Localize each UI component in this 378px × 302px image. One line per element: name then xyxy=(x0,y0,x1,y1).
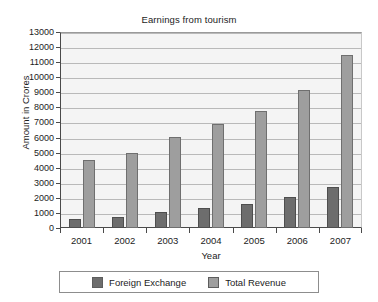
bar-total-revenue-2005 xyxy=(255,111,267,228)
x-tick-mark xyxy=(103,228,104,233)
bar-group xyxy=(189,32,232,228)
x-axis-title: Year xyxy=(60,250,362,261)
y-tick-label: 5000 xyxy=(0,148,54,158)
bar-group xyxy=(146,32,189,228)
x-tick-mark xyxy=(361,228,362,233)
bar-foreign-exchange-2002 xyxy=(112,217,124,228)
bar-foreign-exchange-2004 xyxy=(198,208,210,228)
y-tick-label: 4000 xyxy=(0,163,54,173)
chart-title: Earnings from tourism xyxy=(0,14,378,25)
y-tick-label: 2000 xyxy=(0,193,54,203)
y-tick-label: 6000 xyxy=(0,133,54,143)
bar-total-revenue-2006 xyxy=(298,90,310,228)
x-tick-mark xyxy=(319,228,320,233)
legend-item: Total Revenue xyxy=(208,277,286,288)
bar-foreign-exchange-2007 xyxy=(327,187,339,228)
bar-group xyxy=(60,32,103,228)
y-tick-label: 11000 xyxy=(0,57,54,67)
x-axis-labels: 2001200220032004200520062007 xyxy=(60,235,362,249)
y-tick-label: 3000 xyxy=(0,178,54,188)
legend-swatch-icon xyxy=(92,277,103,288)
chart-legend: Foreign ExchangeTotal Revenue xyxy=(59,271,319,293)
y-tick-label: 10000 xyxy=(0,72,54,82)
x-tick-label: 2006 xyxy=(287,235,308,246)
bar-total-revenue-2003 xyxy=(169,137,181,228)
x-tick-label: 2001 xyxy=(71,235,92,246)
x-tick-mark xyxy=(276,228,277,233)
y-tick-label: 12000 xyxy=(0,42,54,52)
y-tick-label: 7000 xyxy=(0,117,54,127)
legend-label: Total Revenue xyxy=(225,277,286,288)
x-axis-ticks xyxy=(60,228,362,233)
y-tick-label: 9000 xyxy=(0,87,54,97)
bar-group xyxy=(103,32,146,228)
legend-swatch-icon xyxy=(208,277,219,288)
x-tick-mark xyxy=(146,228,147,233)
bar-total-revenue-2004 xyxy=(212,124,224,228)
x-tick-mark xyxy=(233,228,234,233)
y-tick-label: 0 xyxy=(0,223,54,233)
bars-layer xyxy=(60,32,362,228)
bar-chart: Earnings from tourism Amount in Crores 0… xyxy=(0,0,378,302)
x-tick-label: 2004 xyxy=(200,235,221,246)
legend-item: Foreign Exchange xyxy=(92,277,186,288)
x-tick-mark xyxy=(189,228,190,233)
bar-group xyxy=(276,32,319,228)
bar-total-revenue-2007 xyxy=(341,55,353,228)
bar-total-revenue-2001 xyxy=(83,160,95,228)
bar-foreign-exchange-2005 xyxy=(241,204,253,228)
bar-total-revenue-2002 xyxy=(126,153,138,228)
x-tick-label: 2007 xyxy=(330,235,351,246)
y-tick-label: 13000 xyxy=(0,27,54,37)
bar-group xyxy=(319,32,362,228)
legend-label: Foreign Exchange xyxy=(109,277,186,288)
bar-group xyxy=(233,32,276,228)
x-tick-label: 2002 xyxy=(114,235,135,246)
y-tick-label: 1000 xyxy=(0,208,54,218)
x-tick-label: 2005 xyxy=(244,235,265,246)
y-tick-label: 8000 xyxy=(0,102,54,112)
bar-foreign-exchange-2001 xyxy=(69,219,81,228)
x-tick-mark xyxy=(60,228,61,233)
bar-foreign-exchange-2003 xyxy=(155,212,167,228)
bar-foreign-exchange-2006 xyxy=(284,197,296,228)
x-tick-label: 2003 xyxy=(157,235,178,246)
